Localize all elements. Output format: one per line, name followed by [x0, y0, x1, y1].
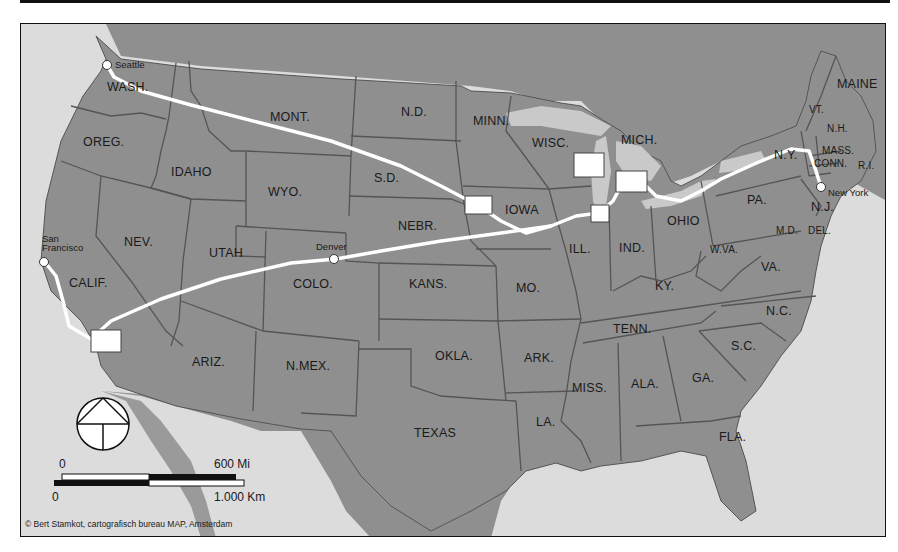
marker-detroit — [616, 171, 647, 192]
state-label-ohio: OHIO — [667, 214, 700, 228]
state-label-nc: N.C. — [766, 304, 792, 318]
state-label-iowa: IOWA — [505, 203, 539, 217]
state-label-la: LA. — [536, 415, 555, 429]
state-label-wyo: WYO. — [268, 185, 302, 199]
state-label-mont: MONT. — [270, 110, 310, 124]
state-label-tenn: TENN. — [613, 322, 652, 336]
state-label-wisc: WISC. — [532, 136, 569, 150]
state-label-md: M.D. — [776, 225, 798, 236]
state-label-ind: IND. — [619, 241, 645, 255]
city-label-seattle: Seattle — [115, 59, 145, 70]
north-arrow-icon — [77, 398, 129, 450]
state-label-del: DEL. — [808, 225, 831, 236]
scale-km-end: 1.000 Km — [214, 490, 265, 504]
state-label-kans: KANS. — [409, 277, 448, 291]
state-label-vt: VT. — [809, 104, 824, 115]
city-label-denver: Denver — [316, 241, 347, 252]
state-label-nj: N.J. — [811, 200, 834, 214]
scale-miles-end: 600 Mi — [214, 457, 250, 471]
state-label-mass: MASS. — [822, 145, 854, 156]
state-label-va: VA. — [761, 260, 781, 274]
marker-milwaukee — [574, 153, 604, 177]
city-dot-new-york — [817, 183, 826, 192]
state-label-ariz: ARIZ. — [192, 355, 225, 369]
state-label-nh: N.H. — [827, 123, 848, 134]
state-label-utah: UTAH — [209, 246, 243, 260]
marker-omaha — [465, 196, 492, 214]
state-label-conn: CONN. — [814, 158, 847, 169]
marker-los-angeles — [91, 330, 121, 352]
state-label-mo: MO. — [516, 281, 540, 295]
state-label-okla: OKLA. — [435, 349, 473, 363]
state-label-sc: S.C. — [731, 339, 756, 353]
state-label-ala: ALA. — [631, 377, 659, 391]
state-label-nmex: N.MEX. — [286, 359, 330, 373]
state-label-ri: R.I. — [858, 160, 874, 171]
state-label-texas: TEXAS — [414, 426, 456, 440]
state-label-sd: S.D. — [374, 171, 399, 185]
state-label-miss: MISS. — [572, 381, 607, 395]
map-frame: Seattle San Francisco Denver New York WA… — [20, 23, 886, 537]
scale-km-start: 0 — [52, 490, 59, 504]
city-dot-denver — [330, 255, 339, 264]
state-label-mich: MICH. — [621, 133, 657, 147]
marker-chicago — [591, 205, 609, 222]
city-dot-san-francisco — [40, 258, 49, 267]
state-label-nd: N.D. — [401, 105, 427, 119]
state-label-ga: GA. — [692, 371, 714, 385]
state-label-minn: MINN. — [473, 114, 509, 128]
state-label-ark: ARK. — [524, 351, 554, 365]
city-dot-seattle — [103, 61, 112, 70]
top-rule — [20, 0, 890, 3]
state-label-ill: ILL. — [569, 242, 591, 256]
city-label-sf-2: Francisco — [42, 242, 83, 253]
state-label-colo: COLO. — [293, 277, 333, 291]
map-credit: © Bert Stamkot, cartografisch bureau MAP… — [25, 519, 232, 529]
state-label-ny: N.Y. — [774, 148, 798, 162]
scale-miles-start: 0 — [59, 457, 66, 471]
state-label-maine: MAINE — [837, 77, 878, 91]
state-label-pa: PA. — [747, 193, 767, 207]
state-label-wash: WASH. — [107, 80, 149, 94]
state-label-idaho: IDAHO — [171, 165, 212, 179]
state-label-calif: CALIF. — [69, 276, 108, 290]
city-label-new-york: New York — [828, 187, 868, 198]
state-label-fla: FLA. — [719, 430, 746, 444]
state-label-nev: NEV. — [124, 235, 153, 249]
state-label-oreg: OREG. — [83, 135, 124, 149]
state-label-ky: KY. — [655, 279, 674, 293]
state-label-wva: W.VA. — [710, 244, 738, 255]
us-route-map: Seattle San Francisco Denver New York WA… — [21, 24, 886, 537]
state-label-nebr: NEBR. — [398, 219, 437, 233]
